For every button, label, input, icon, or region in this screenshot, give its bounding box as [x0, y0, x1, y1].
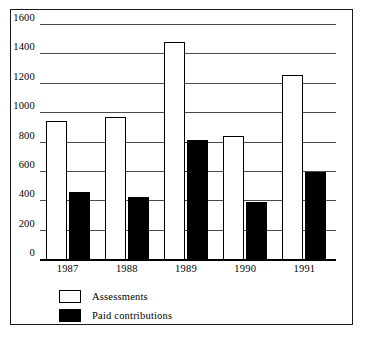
- bars-layer: [40, 24, 336, 259]
- bar-group-1988: [99, 24, 158, 259]
- y-axis-tick-label: 1400: [13, 41, 35, 52]
- x-axis-labels: 19871988198919901991: [40, 262, 336, 278]
- bar-paid-contributions-1987[interactable]: [69, 192, 90, 259]
- x-axis-tick-label-1988: 1988: [116, 262, 138, 276]
- bar-assessments-1991[interactable]: [282, 75, 303, 259]
- chart-legend: AssessmentsPaid contributions: [59, 287, 172, 325]
- axis-baseline: [40, 259, 336, 261]
- y-axis-tick-label: 1000: [13, 100, 35, 111]
- x-axis-tick-label-1990: 1990: [234, 262, 256, 276]
- bar-paid-contributions-1989[interactable]: [187, 140, 208, 259]
- legend-item-assessments[interactable]: Assessments: [59, 287, 172, 306]
- legend-item-paid-contributions[interactable]: Paid contributions: [59, 306, 172, 325]
- x-axis-tick-label-1987: 1987: [57, 262, 79, 276]
- y-axis-tick-label: 800: [19, 130, 35, 141]
- legend-label: Assessments: [92, 290, 148, 303]
- x-axis-tick-label-1991: 1991: [293, 262, 315, 276]
- x-axis-tick-label-1989: 1989: [175, 262, 197, 276]
- bar-group-1991: [277, 24, 336, 259]
- legend-label: Paid contributions: [92, 309, 172, 322]
- bar-group-1987: [40, 24, 99, 259]
- bar-group-1989: [158, 24, 217, 259]
- bar-paid-contributions-1991[interactable]: [305, 172, 326, 259]
- bar-paid-contributions-1990[interactable]: [246, 202, 267, 259]
- bar-assessments-1988[interactable]: [105, 117, 126, 259]
- chart-frame: 02004006008001000120014001600 1987198819…: [10, 9, 353, 325]
- y-axis-tick-label: 200: [19, 218, 35, 229]
- bar-paid-contributions-1988[interactable]: [128, 197, 149, 259]
- legend-swatch-white: [59, 290, 81, 303]
- y-axis-tick-label: 1600: [13, 12, 35, 23]
- bar-assessments-1990[interactable]: [223, 136, 244, 259]
- plot-area: 02004006008001000120014001600: [40, 24, 336, 259]
- bar-group-1990: [218, 24, 277, 259]
- bar-assessments-1989[interactable]: [164, 42, 185, 259]
- bar-assessments-1987[interactable]: [46, 121, 67, 259]
- y-axis-tick-label: 1200: [13, 71, 35, 82]
- y-axis-tick-label: 0: [30, 247, 35, 258]
- y-axis-tick-label: 600: [19, 159, 35, 170]
- y-axis-tick-label: 400: [19, 188, 35, 199]
- legend-swatch-black: [59, 309, 81, 322]
